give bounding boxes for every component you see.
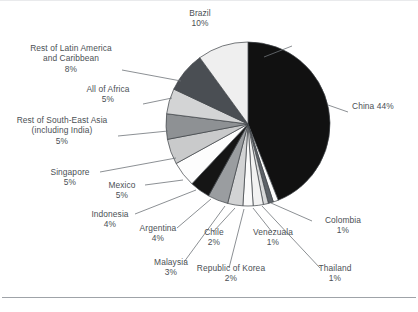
pie-label-chile: Chile 2%: [196, 227, 232, 248]
pie-label-brazil-percent: 10%: [160, 18, 240, 28]
pie-label-brazil: Brazil 10%: [160, 8, 240, 29]
pie-slices-group: [166, 42, 330, 206]
pie-label-mexico-title: Mexico: [99, 180, 145, 190]
pie-label-venezuala-title: Venezuala: [244, 227, 302, 237]
pie-label-rest-of-latin-america-line2: and Caribbean: [16, 53, 126, 63]
pie-label-thailand-title: Thailand: [307, 263, 363, 273]
pie-label-indonesia-title: Indonesia: [83, 209, 137, 219]
pie-label-all-of-africa: All of Africa 5%: [76, 84, 140, 105]
leader-line-singapore: [100, 158, 176, 172]
leader-line-rest-of-latin-america: [122, 70, 181, 81]
pie-label-chile-title: Chile: [196, 227, 232, 237]
pie-label-republic-of-korea-title: Republic of Korea: [186, 263, 276, 273]
pie-label-argentina-title: Argentina: [130, 223, 186, 233]
pie-label-singapore-percent: 5%: [40, 177, 100, 187]
pie-label-rest-of-latin-america-line1: Rest of Latin America: [16, 43, 126, 53]
pie-label-china: China 44%: [352, 101, 416, 111]
pie-label-mexico: Mexico 5%: [99, 180, 145, 201]
pie-label-thailand: Thailand 1%: [307, 263, 363, 284]
pie-label-singapore-title: Singapore: [40, 167, 100, 177]
pie-label-singapore: Singapore 5%: [40, 167, 100, 188]
pie-label-all-of-africa-title: All of Africa: [76, 84, 140, 94]
pie-chart-figure: Brazil 10% Rest of Latin America and Car…: [0, 0, 418, 312]
leader-line-all-of-africa: [143, 98, 172, 104]
pie-label-republic-of-korea: Republic of Korea 2%: [186, 263, 276, 284]
pie-label-mexico-percent: 5%: [99, 190, 145, 200]
pie-label-venezuala: Venezuala 1%: [244, 227, 302, 248]
pie-label-colombia: Colombia 1%: [314, 215, 372, 236]
pie-label-rest-of-latin-america-percent: 8%: [16, 64, 126, 74]
leader-line-rest-of-south-east-asia: [118, 131, 168, 136]
pie-label-venezuala-percent: 1%: [244, 237, 302, 247]
pie-label-rest-of-south-east-asia-line1: Rest of South-East Asia: [6, 115, 118, 125]
pie-label-rest-of-south-east-asia: Rest of South-East Asia (including India…: [6, 115, 118, 146]
pie-label-colombia-percent: 1%: [314, 225, 372, 235]
pie-label-chile-percent: 2%: [196, 237, 232, 247]
pie-label-brazil-title: Brazil: [160, 8, 240, 18]
pie-label-all-of-africa-percent: 5%: [76, 94, 140, 104]
pie-label-rest-of-south-east-asia-percent: 5%: [6, 136, 118, 146]
pie-label-colombia-title: Colombia: [314, 215, 372, 225]
pie-label-argentina-percent: 4%: [130, 233, 186, 243]
pie-label-indonesia: Indonesia 4%: [83, 209, 137, 230]
leader-line-china: [328, 105, 348, 112]
pie-label-thailand-percent: 1%: [307, 273, 363, 283]
pie-label-rest-of-latin-america-and-caribbean: Rest of Latin America and Caribbean 8%: [16, 43, 126, 74]
pie-label-argentina: Argentina 4%: [130, 223, 186, 244]
pie-label-republic-of-korea-percent: 2%: [186, 273, 276, 283]
pie-label-rest-of-south-east-asia-line2: (including India): [6, 125, 118, 135]
leader-line-mexico: [145, 180, 183, 185]
pie-label-indonesia-percent: 4%: [83, 219, 137, 229]
figure-bottom-rule: [2, 297, 416, 298]
leader-line-colombia: [271, 203, 312, 221]
pie-label-china-title: China 44%: [352, 101, 416, 111]
